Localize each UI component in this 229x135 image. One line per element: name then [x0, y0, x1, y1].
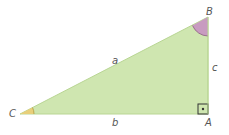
vertex-label-a: A [204, 117, 212, 128]
vertex-label-c: C [9, 108, 16, 119]
right-angle-dot [202, 108, 204, 110]
side-label-b: b [112, 117, 118, 128]
right-triangle-diagram: B A C a b c [0, 0, 229, 135]
angle-c-arc [20, 108, 34, 115]
side-label-c: c [212, 62, 218, 73]
side-label-a: a [112, 55, 118, 66]
vertex-label-b: B [206, 6, 213, 17]
